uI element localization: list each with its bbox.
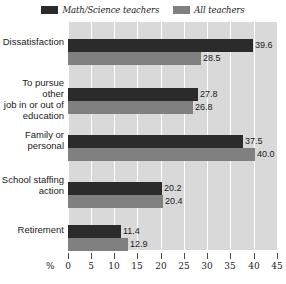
category-label-line: School staffing <box>0 174 64 185</box>
bar-chart: Math/Science teachers All teachers Dissa… <box>0 0 286 284</box>
category-label-family-or-personal: Family or personal <box>0 129 64 151</box>
bar-math-science-dissatisfaction <box>68 39 253 52</box>
x-axis-tick-label: 20 <box>155 261 166 271</box>
x-axis-tick <box>114 253 115 259</box>
x-axis-tick <box>161 253 162 259</box>
category-label-dissatisfaction: Dissatisfaction <box>0 36 64 47</box>
x-axis-tick-label: 15 <box>131 261 142 271</box>
bar-row: 26.8 <box>68 101 278 114</box>
x-axis-tick-label: 5 <box>88 261 94 271</box>
bar-row: 11.4 <box>68 225 278 238</box>
bar-value-all-teachers-dissatisfaction: 28.5 <box>203 53 221 64</box>
category-label-retirement: Retirement <box>0 224 64 235</box>
bar-value-math-science-school-staffing-action: 20.2 <box>164 183 182 194</box>
bar-all-teachers-pursue-other-job <box>68 101 193 114</box>
x-axis-tick <box>68 253 69 259</box>
bar-row: 27.8 <box>68 88 278 101</box>
category-label-line: Family or <box>0 129 64 140</box>
bar-group-pursue-other-job: 27.8 26.8 <box>68 88 278 114</box>
bar-row: 20.2 <box>68 182 278 195</box>
chart-legend: Math/Science teachers All teachers <box>0 3 286 17</box>
legend-label-all-teachers: All teachers <box>194 5 244 15</box>
bar-math-science-school-staffing-action <box>68 182 162 195</box>
category-label-line: Dissatisfaction <box>0 36 64 47</box>
x-axis-tick <box>254 253 255 259</box>
x-axis-tick-label: 45 <box>271 261 282 271</box>
bar-row: 37.5 <box>68 135 278 148</box>
bar-value-all-teachers-retirement: 12.9 <box>130 239 148 250</box>
legend-swatch-dark-icon <box>41 6 58 14</box>
x-axis-tick-label: 35 <box>224 261 235 271</box>
x-axis-tick-label: 10 <box>108 261 119 271</box>
category-axis-labels: Dissatisfaction To pursue other job in o… <box>0 22 64 250</box>
bar-row: 28.5 <box>68 52 278 65</box>
bar-value-all-teachers-family-or-personal: 40.0 <box>257 149 275 160</box>
x-axis: 0 5 10 15 20 25 30 35 40 45 <box>68 250 278 284</box>
bar-math-science-family-or-personal <box>68 135 243 148</box>
x-axis-tick-label: 0 <box>65 261 71 271</box>
category-label-pursue-other-job: To pursue other job in or out of educati… <box>0 77 64 121</box>
x-axis-tick-label: 25 <box>178 261 189 271</box>
x-axis-tick <box>137 253 138 259</box>
bar-all-teachers-school-staffing-action <box>68 195 163 208</box>
bar-value-math-science-family-or-personal: 37.5 <box>245 136 263 147</box>
category-label-line: personal <box>0 140 64 151</box>
bar-value-math-science-pursue-other-job: 27.8 <box>200 89 218 100</box>
bar-value-all-teachers-school-staffing-action: 20.4 <box>165 196 183 207</box>
bar-group-retirement: 11.4 12.9 <box>68 225 278 251</box>
category-label-line: Retirement <box>0 224 64 235</box>
x-axis-tick <box>184 253 185 259</box>
bar-value-math-science-retirement: 11.4 <box>123 226 140 237</box>
category-label-line: education <box>0 110 64 121</box>
bar-group-dissatisfaction: 39.6 28.5 <box>68 39 278 65</box>
bar-row: 40.0 <box>68 148 278 161</box>
bar-math-science-retirement <box>68 225 121 238</box>
x-axis-tick <box>207 253 208 259</box>
bar-row: 39.6 <box>68 39 278 52</box>
bar-groups: 39.6 28.5 27.8 26.8 <box>68 22 278 250</box>
x-axis-tick <box>230 253 231 259</box>
legend-entry-all-teachers: All teachers <box>173 5 244 15</box>
plot-area: 39.6 28.5 27.8 26.8 <box>68 22 278 250</box>
bar-row: 20.4 <box>68 195 278 208</box>
x-axis-tick <box>277 253 278 259</box>
category-label-line: To pursue other <box>0 77 64 99</box>
category-label-school-staffing-action: School staffing action <box>0 174 64 196</box>
category-label-line: action <box>0 185 64 196</box>
legend-entry-math-science-teachers: Math/Science teachers <box>41 5 159 15</box>
x-axis-unit-label: % <box>46 261 55 271</box>
bar-all-teachers-dissatisfaction <box>68 52 201 65</box>
bar-group-school-staffing-action: 20.2 20.4 <box>68 182 278 208</box>
legend-swatch-light-icon <box>173 6 190 14</box>
x-axis-tick <box>91 253 92 259</box>
bar-value-math-science-dissatisfaction: 39.6 <box>255 40 273 51</box>
bar-all-teachers-family-or-personal <box>68 148 255 161</box>
bar-math-science-pursue-other-job <box>68 88 198 101</box>
bar-value-all-teachers-pursue-other-job: 26.8 <box>195 102 213 113</box>
category-label-line: job in or out of <box>0 99 64 110</box>
x-axis-tick-label: 40 <box>248 261 259 271</box>
x-axis-tick-label: 30 <box>201 261 212 271</box>
bar-group-family-or-personal: 37.5 40.0 <box>68 135 278 161</box>
legend-label-math-science-teachers: Math/Science teachers <box>62 5 159 15</box>
